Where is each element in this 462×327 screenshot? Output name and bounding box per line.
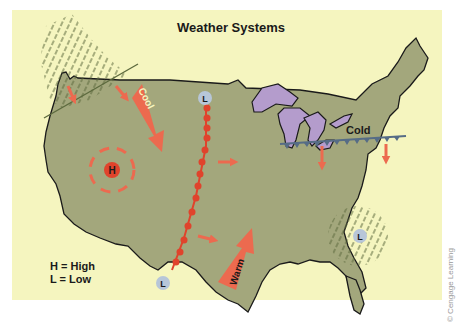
low-pressure-south: L <box>156 276 170 290</box>
low-pressure-north: L <box>198 91 212 105</box>
copyright-credit: © Cengage Learning <box>446 248 455 322</box>
diagram-title: Weather Systems <box>0 20 462 35</box>
cold-label: Cold <box>346 124 370 136</box>
legend-low: L = Low <box>50 273 95 286</box>
legend: H = High L = Low <box>50 260 95 286</box>
svg-text:L: L <box>202 94 208 104</box>
svg-text:L: L <box>357 232 363 242</box>
high-label: H <box>108 165 115 176</box>
svg-text:L: L <box>160 279 166 289</box>
low-pressure-east: L <box>353 229 367 243</box>
legend-high: H = High <box>50 260 95 273</box>
